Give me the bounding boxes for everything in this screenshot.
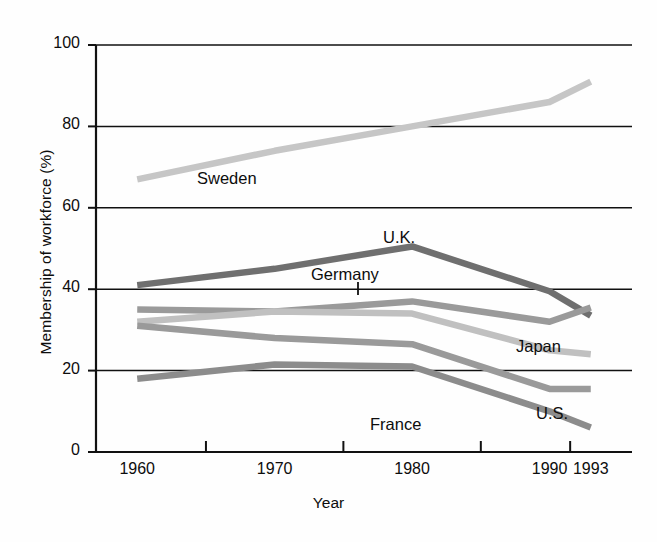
y-tick-label-100: 100 <box>34 34 80 52</box>
series-label-sweden: Sweden <box>197 169 257 188</box>
series-line-us <box>137 326 591 389</box>
series-label-uk: U.K. <box>383 228 415 247</box>
series-label-us: U.S. <box>536 404 568 423</box>
x-tick-label-1970: 1970 <box>235 460 315 478</box>
y-tick-label-60: 60 <box>34 197 80 215</box>
x-axis-title: Year <box>0 494 657 512</box>
x-tick-label-1980: 1980 <box>372 460 452 478</box>
series-line-france <box>137 364 591 427</box>
y-tick-label-20: 20 <box>34 360 80 378</box>
series-label-germany: Germany <box>311 265 379 284</box>
x-tick-label-1960: 1960 <box>97 460 177 478</box>
y-tick-label-80: 80 <box>34 115 80 133</box>
series-label-japan: Japan <box>516 337 561 356</box>
y-tick-label-0: 0 <box>34 441 80 459</box>
line-chart-figure: Membership of workforce (%) Year 0204060… <box>0 0 657 542</box>
series-line-sweden <box>137 82 591 180</box>
series-label-france: France <box>370 415 421 434</box>
y-tick-label-40: 40 <box>34 278 80 296</box>
y-axis-title: Membership of workforce (%) <box>37 102 55 402</box>
x-tick-label-1993: 1993 <box>551 460 631 478</box>
